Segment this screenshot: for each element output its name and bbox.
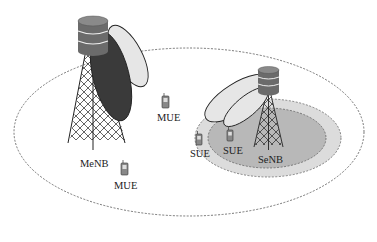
menb-label: MeNB (80, 158, 109, 169)
mue-label: MUE (114, 180, 137, 191)
mue-phone-icon (162, 93, 169, 108)
menb-server-icon (78, 16, 108, 56)
mue-phone-icon (121, 160, 128, 175)
mue-label: MUE (157, 112, 180, 123)
sue-label: SUE (190, 148, 210, 159)
senb-label: SeNB (258, 154, 283, 165)
hetnet-diagram: MUE MUE MeNB SUE SUE SeNB (0, 0, 377, 242)
senb-server-icon (258, 67, 279, 96)
sue-label: SUE (223, 145, 243, 156)
